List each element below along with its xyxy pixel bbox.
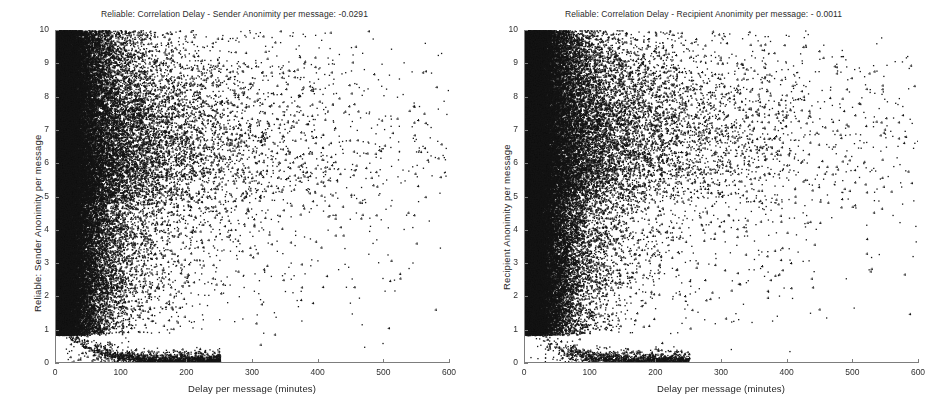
y-tick-label: 0 bbox=[492, 357, 518, 367]
x-axis-label-sender: Delay per message (minutes) bbox=[55, 383, 449, 394]
y-tick-mark bbox=[524, 296, 528, 297]
scatter-canvas-sender bbox=[56, 30, 449, 363]
scatter-canvas-recipient bbox=[525, 30, 918, 363]
y-tick-label: 9 bbox=[492, 57, 518, 67]
y-tick-label: 8 bbox=[492, 91, 518, 101]
y-tick-label: 3 bbox=[23, 257, 49, 267]
x-tick-mark bbox=[524, 359, 525, 363]
y-tick-label: 6 bbox=[492, 157, 518, 167]
y-tick-mark bbox=[55, 230, 59, 231]
x-tick-label: 200 bbox=[171, 367, 201, 377]
y-tick-label: 3 bbox=[492, 257, 518, 267]
y-tick-mark bbox=[524, 197, 528, 198]
chart-title-sender: Reliable: Correlation Delay - Sender Ano… bbox=[0, 9, 469, 20]
y-tick-mark bbox=[55, 130, 59, 131]
x-tick-mark bbox=[655, 359, 656, 363]
figure-container: Reliable: Correlation Delay - Sender Ano… bbox=[0, 0, 939, 405]
x-tick-mark bbox=[55, 359, 56, 363]
panel-recipient-anonimity: Reliable: Correlation Delay - Recipient … bbox=[469, 0, 938, 405]
x-tick-label: 600 bbox=[434, 367, 464, 377]
y-tick-label: 2 bbox=[492, 290, 518, 300]
y-tick-mark bbox=[55, 197, 59, 198]
x-tick-mark bbox=[721, 359, 722, 363]
x-tick-mark bbox=[383, 359, 384, 363]
y-tick-mark bbox=[524, 30, 528, 31]
x-tick-mark bbox=[852, 359, 853, 363]
y-tick-mark bbox=[524, 363, 528, 364]
panel-sender-anonimity: Reliable: Correlation Delay - Sender Ano… bbox=[0, 0, 469, 405]
x-tick-label: 300 bbox=[237, 367, 267, 377]
x-tick-mark bbox=[918, 359, 919, 363]
y-tick-label: 6 bbox=[23, 157, 49, 167]
y-tick-label: 4 bbox=[492, 224, 518, 234]
y-tick-label: 2 bbox=[23, 290, 49, 300]
y-tick-mark bbox=[524, 163, 528, 164]
x-tick-label: 100 bbox=[106, 367, 136, 377]
x-tick-label: 0 bbox=[509, 367, 539, 377]
x-tick-label: 500 bbox=[837, 367, 867, 377]
y-tick-mark bbox=[524, 230, 528, 231]
y-tick-label: 1 bbox=[492, 324, 518, 334]
y-tick-label: 8 bbox=[23, 91, 49, 101]
y-tick-mark bbox=[55, 163, 59, 164]
y-tick-mark bbox=[524, 263, 528, 264]
y-tick-mark bbox=[55, 63, 59, 64]
x-tick-mark bbox=[318, 359, 319, 363]
y-tick-label: 9 bbox=[23, 57, 49, 67]
y-tick-label: 10 bbox=[492, 24, 518, 34]
y-tick-label: 1 bbox=[23, 324, 49, 334]
y-tick-label: 5 bbox=[23, 191, 49, 201]
y-tick-mark bbox=[55, 97, 59, 98]
y-tick-mark bbox=[55, 330, 59, 331]
x-tick-mark bbox=[186, 359, 187, 363]
y-tick-mark bbox=[55, 263, 59, 264]
y-tick-label: 5 bbox=[492, 191, 518, 201]
y-tick-mark bbox=[524, 330, 528, 331]
x-tick-mark bbox=[787, 359, 788, 363]
x-tick-label: 400 bbox=[772, 367, 802, 377]
x-tick-label: 600 bbox=[903, 367, 933, 377]
x-tick-mark bbox=[449, 359, 450, 363]
x-tick-mark bbox=[590, 359, 591, 363]
x-tick-label: 0 bbox=[40, 367, 70, 377]
y-tick-label: 0 bbox=[23, 357, 49, 367]
y-tick-mark bbox=[55, 296, 59, 297]
y-tick-label: 4 bbox=[23, 224, 49, 234]
y-tick-label: 7 bbox=[23, 124, 49, 134]
y-tick-mark bbox=[524, 97, 528, 98]
x-tick-mark bbox=[252, 359, 253, 363]
y-tick-label: 7 bbox=[492, 124, 518, 134]
x-tick-label: 400 bbox=[303, 367, 333, 377]
x-tick-label: 500 bbox=[368, 367, 398, 377]
y-tick-label: 10 bbox=[23, 24, 49, 34]
plot-area-recipient bbox=[524, 30, 918, 363]
x-tick-mark bbox=[121, 359, 122, 363]
chart-title-recipient: Reliable: Correlation Delay - Recipient … bbox=[469, 9, 938, 20]
x-tick-label: 200 bbox=[640, 367, 670, 377]
y-tick-mark bbox=[55, 363, 59, 364]
y-tick-mark bbox=[524, 63, 528, 64]
plot-area-sender bbox=[55, 30, 449, 363]
x-axis-label-recipient: Delay per message (minutes) bbox=[524, 383, 918, 394]
x-tick-label: 300 bbox=[706, 367, 736, 377]
y-tick-mark bbox=[55, 30, 59, 31]
x-tick-label: 100 bbox=[575, 367, 605, 377]
y-tick-mark bbox=[524, 130, 528, 131]
